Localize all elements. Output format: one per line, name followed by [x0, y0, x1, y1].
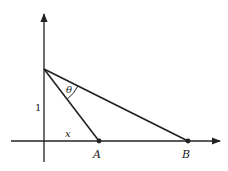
point-b — [186, 139, 191, 144]
height-label: 1 — [35, 102, 41, 113]
segment-pa — [44, 69, 99, 141]
point-b-label: B — [181, 148, 190, 161]
diagram-canvas: θ 1 x A B — [0, 0, 228, 171]
point-a — [97, 139, 102, 144]
base-label: x — [65, 128, 71, 139]
angle-label: θ — [66, 84, 72, 95]
point-a-label: A — [92, 148, 101, 161]
